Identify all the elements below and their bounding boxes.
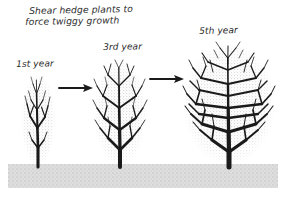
plant-stage-3 <box>182 41 277 169</box>
stage-label-1st-year: 1st year <box>16 58 54 69</box>
arrow-stage-1-to-2 <box>59 84 93 92</box>
plant-stage-2 <box>92 56 149 168</box>
illustration-canvas <box>0 0 290 197</box>
figure-title-caption: Shear hedge plants to force twiggy growt… <box>29 4 133 28</box>
figure-title-line-2: force twiggy growth <box>25 15 133 28</box>
stage-label-5th-year: 5th year <box>199 25 238 37</box>
hedge-growth-figure: Shear hedge plants to force twiggy growt… <box>0 0 290 197</box>
plant-stage-1 <box>19 72 59 168</box>
arrow-stage-2-to-3 <box>150 75 184 83</box>
stage-label-3rd-year: 3rd year <box>103 41 142 52</box>
